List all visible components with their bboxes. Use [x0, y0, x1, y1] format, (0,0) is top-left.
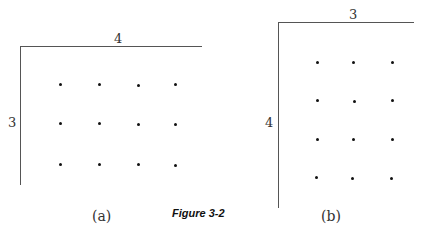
figure-b: 3 4 (b) — [0, 0, 421, 235]
grid-dot — [351, 177, 354, 180]
subfigure-label: (b) — [321, 209, 341, 223]
top-dimension-label: 3 — [349, 8, 357, 21]
grid-dot — [391, 99, 394, 102]
side-dimension-label: 4 — [265, 116, 273, 129]
grid-dot — [391, 138, 394, 141]
figure-caption: Figure 3-2 — [172, 208, 225, 219]
grid-dot — [353, 100, 356, 103]
grid-dot — [316, 138, 319, 141]
left-border-line — [278, 22, 279, 208]
grid-dot — [316, 61, 319, 64]
top-border-line — [278, 22, 414, 23]
grid-dot — [391, 61, 394, 64]
grid-dot — [315, 176, 318, 179]
grid-dot — [352, 138, 355, 141]
grid-dot — [352, 61, 355, 64]
grid-dot — [316, 99, 319, 102]
grid-dot — [390, 177, 393, 180]
